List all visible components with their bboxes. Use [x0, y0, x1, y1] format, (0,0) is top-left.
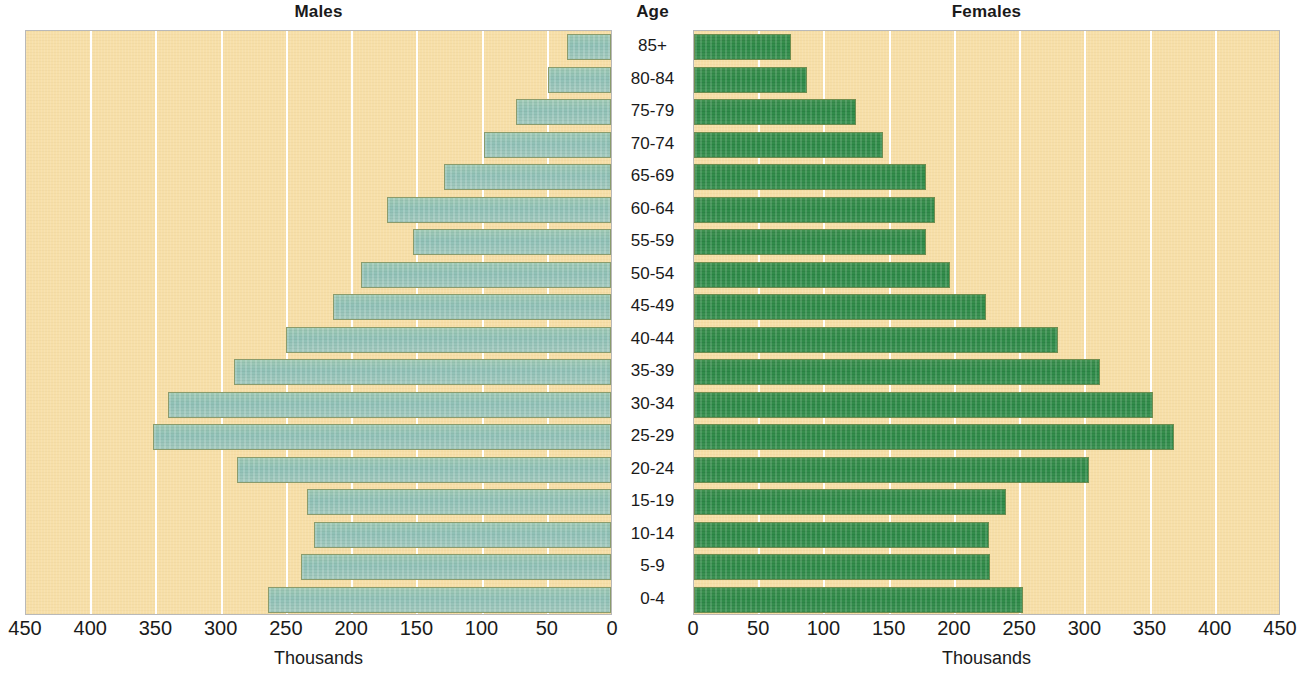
female-bar — [694, 457, 1089, 483]
male-axis-tick: 200 — [334, 617, 367, 640]
males-x-axis: 450400350300250200150100500 — [25, 617, 612, 645]
males-axis-caption: Thousands — [25, 648, 612, 669]
male-bar — [301, 554, 611, 580]
female-bar — [694, 294, 986, 320]
females-x-axis: 050100150200250300350400450 — [693, 617, 1280, 645]
male-axis-tick: 400 — [74, 617, 107, 640]
age-group-label: 40-44 — [612, 326, 693, 352]
female-bar — [694, 587, 1023, 613]
age-group-label: 10-14 — [612, 521, 693, 547]
gridline — [1019, 31, 1021, 614]
male-bar — [444, 164, 611, 190]
male-axis-tick: 350 — [139, 617, 172, 640]
female-bar — [694, 197, 935, 223]
female-axis-tick: 200 — [937, 617, 970, 640]
gridline — [1215, 31, 1217, 614]
female-axis-tick: 300 — [1068, 617, 1101, 640]
male-bar — [413, 229, 611, 255]
gridline — [155, 31, 157, 614]
male-bar — [516, 99, 611, 125]
female-bar — [694, 359, 1100, 385]
age-group-label: 55-59 — [612, 228, 693, 254]
age-group-label: 80-84 — [612, 66, 693, 92]
gridline — [90, 31, 92, 614]
female-bar — [694, 522, 989, 548]
population-pyramid-chart: Males Age Females 85+80-8475-7970-7465-6… — [0, 0, 1315, 678]
age-column-title: Age — [612, 2, 693, 22]
male-axis-tick: 100 — [465, 617, 498, 640]
female-bar — [694, 67, 807, 93]
age-group-label: 70-74 — [612, 131, 693, 157]
female-bar — [694, 554, 990, 580]
age-group-label: 35-39 — [612, 358, 693, 384]
male-bar — [567, 34, 611, 60]
male-bar — [314, 522, 611, 548]
age-group-label: 5-9 — [612, 553, 693, 579]
female-bar — [694, 489, 1006, 515]
age-group-label: 0-4 — [612, 586, 693, 612]
female-axis-tick: 400 — [1198, 617, 1231, 640]
female-axis-tick: 450 — [1263, 617, 1296, 640]
age-labels-column: 85+80-8475-7970-7465-6960-6455-5950-5445… — [612, 30, 693, 615]
male-bar — [268, 587, 611, 613]
female-axis-tick: 250 — [1002, 617, 1035, 640]
age-group-label: 25-29 — [612, 423, 693, 449]
female-axis-tick: 0 — [687, 617, 698, 640]
male-axis-tick: 150 — [400, 617, 433, 640]
gridline — [1150, 31, 1152, 614]
female-axis-tick: 350 — [1133, 617, 1166, 640]
male-axis-tick: 450 — [8, 617, 41, 640]
male-bar — [168, 392, 612, 418]
male-bar — [548, 67, 611, 93]
age-group-label: 65-69 — [612, 163, 693, 189]
male-bar — [484, 132, 611, 158]
females-axis-caption: Thousands — [693, 648, 1280, 669]
male-bar — [237, 457, 611, 483]
male-bar — [333, 294, 611, 320]
males-column-title: Males — [25, 2, 612, 22]
female-bar — [694, 34, 791, 60]
age-group-label: 50-54 — [612, 261, 693, 287]
age-group-label: 20-24 — [612, 456, 693, 482]
age-group-label: 75-79 — [612, 98, 693, 124]
male-axis-tick: 0 — [606, 617, 617, 640]
male-axis-tick: 300 — [204, 617, 237, 640]
age-group-label: 85+ — [612, 33, 693, 59]
age-group-label: 15-19 — [612, 488, 693, 514]
female-axis-tick: 150 — [872, 617, 905, 640]
male-axis-tick: 250 — [269, 617, 302, 640]
gridline — [221, 31, 223, 614]
female-bar — [694, 262, 950, 288]
age-group-label: 30-34 — [612, 391, 693, 417]
male-bar — [361, 262, 611, 288]
male-axis-tick: 50 — [536, 617, 558, 640]
female-bar — [694, 392, 1153, 418]
female-bar — [694, 99, 856, 125]
female-bar — [694, 424, 1174, 450]
age-group-label: 60-64 — [612, 196, 693, 222]
females-column-title: Females — [693, 2, 1280, 22]
female-bar — [694, 327, 1058, 353]
female-axis-tick: 50 — [747, 617, 769, 640]
gridline — [1084, 31, 1086, 614]
female-bar — [694, 164, 926, 190]
females-plot-area — [693, 30, 1280, 615]
male-bar — [387, 197, 611, 223]
age-group-label: 45-49 — [612, 293, 693, 319]
males-plot-area — [25, 30, 612, 615]
female-bar — [694, 132, 883, 158]
female-bar — [694, 229, 926, 255]
male-bar — [153, 424, 611, 450]
male-bar — [286, 327, 611, 353]
female-axis-tick: 100 — [807, 617, 840, 640]
male-bar — [234, 359, 611, 385]
male-bar — [307, 489, 611, 515]
gridline — [286, 31, 288, 614]
